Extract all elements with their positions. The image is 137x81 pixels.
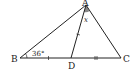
segment-ad (71, 5, 86, 58)
angle-b-arc (26, 54, 28, 58)
angle-x-label: x (84, 16, 88, 24)
triangle-diagram: A B C D 36° x (0, 0, 137, 81)
label-c: C (123, 54, 130, 64)
segment-ac (86, 5, 121, 58)
tick-ad (77, 34, 81, 35)
label-d: D (68, 61, 75, 71)
angle-b-label: 36° (32, 50, 44, 58)
label-a: A (81, 0, 89, 8)
segment-ab (20, 5, 86, 58)
label-b: B (11, 54, 18, 64)
